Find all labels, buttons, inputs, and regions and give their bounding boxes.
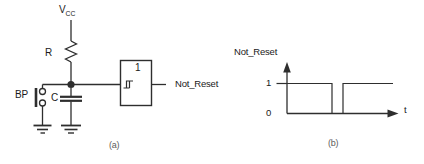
circuit-schematic <box>34 20 167 133</box>
ground-icon <box>61 126 81 134</box>
capacitor-label: C <box>51 93 58 103</box>
timing-diagram <box>277 62 399 117</box>
button-contact-top <box>40 89 46 95</box>
pushbutton-symbol <box>36 85 46 126</box>
waveform-polyline <box>287 84 393 114</box>
pushbutton-label: BP <box>15 90 28 100</box>
button-contact-bottom <box>40 100 46 106</box>
capacitor-symbol <box>60 88 82 126</box>
x-axis-arrow-icon <box>388 110 399 118</box>
resistor-symbol <box>66 41 77 62</box>
junction-dot <box>67 81 74 88</box>
timing-title: Not_Reset <box>234 47 277 57</box>
subfigure-b-caption: (b) <box>328 139 338 148</box>
y-axis-arrow-icon <box>283 62 291 73</box>
gate-label: 1 <box>135 63 140 73</box>
subfigure-a-caption: (a) <box>109 141 119 150</box>
resistor-label: R <box>45 48 52 58</box>
figure-reset-circuit-and-timing: VCC R BP C 1 Not_Reset (a) Not_Reset 1 0… <box>0 0 424 164</box>
time-axis-label: t <box>404 105 406 115</box>
vcc-label-sub: CC <box>65 10 75 17</box>
output-signal-label: Not_Reset <box>175 79 218 89</box>
vcc-label: VCC <box>59 5 75 16</box>
tick-label-1: 1 <box>266 78 271 88</box>
ground-icon <box>34 126 52 134</box>
tick-label-0: 0 <box>266 108 271 118</box>
